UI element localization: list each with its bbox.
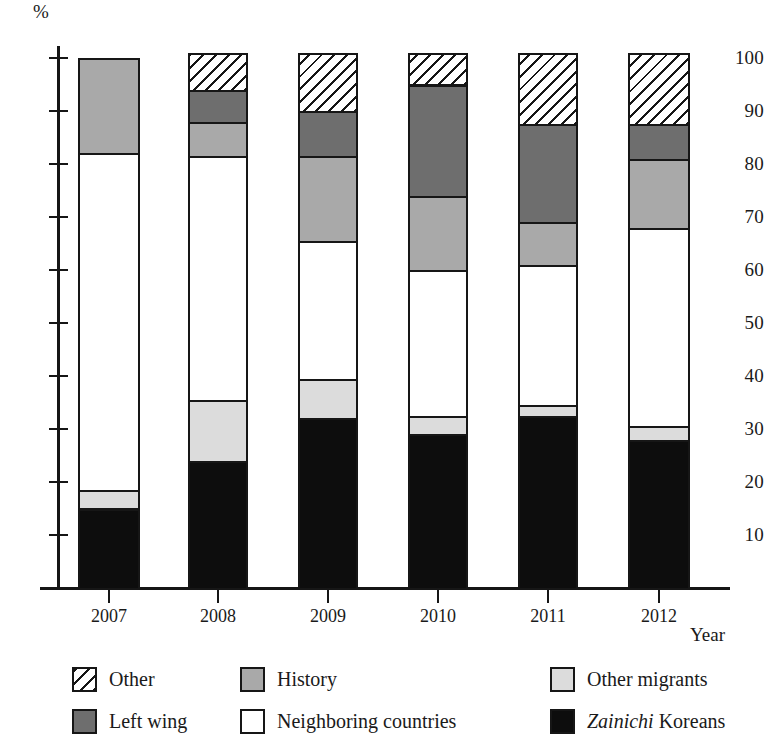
y-tick-label-30: 30 — [720, 419, 764, 438]
bar-segment-2008-leftwing — [188, 90, 248, 124]
y-axis-unit-label: % — [33, 2, 49, 21]
dark-gray-swatch — [72, 709, 97, 734]
bar-segment-2012-history — [628, 159, 690, 230]
bar-segment-2009-neighbor — [298, 241, 358, 381]
bar-segment-2011-other — [518, 53, 578, 127]
bar-segment-2012-zainichi — [628, 440, 690, 590]
y-tick-40 — [49, 375, 68, 377]
bar-segment-2009-leftwing — [298, 111, 358, 158]
x-tick-2007 — [108, 590, 110, 603]
bar-segment-2011-neighbor — [518, 265, 578, 407]
bar-segment-2008-other — [188, 53, 248, 92]
hatch-swatch — [72, 667, 97, 692]
bar-segment-2011-zainichi — [518, 416, 578, 590]
legend-label-history: History — [277, 668, 337, 690]
bar-2007 — [78, 0, 140, 588]
y-tick-label-90: 90 — [720, 101, 764, 120]
y-tick-50 — [49, 322, 68, 324]
white-swatch — [240, 709, 265, 734]
bar-segment-2009-other — [298, 53, 358, 113]
x-tick-2012 — [658, 590, 660, 603]
y-tick-80 — [49, 163, 68, 165]
bar-2012 — [628, 0, 690, 588]
x-axis-title: Year — [690, 625, 725, 644]
bar-segment-2012-leftwing — [628, 124, 690, 160]
bar-segment-2012-neighbor — [628, 228, 690, 429]
bar-segment-2010-leftwing — [408, 85, 468, 198]
bar-segment-2007-zainichi — [78, 509, 140, 591]
legend-item-other[interactable]: Other — [72, 664, 155, 694]
legend-label-neighbor: Neighboring countries — [277, 710, 456, 732]
x-tick-label-2008: 2008 — [173, 607, 263, 625]
y-tick-70 — [49, 216, 68, 218]
legend-item-othermig[interactable]: Other migrants — [550, 664, 708, 694]
x-axis-line — [40, 587, 730, 590]
legend-item-zainichi[interactable]: Zainichi Koreans — [550, 706, 725, 736]
bar-segment-2007-othermig — [78, 490, 140, 511]
x-tick-2009 — [327, 590, 329, 603]
legend-label-zainichi: Zainichi Koreans — [587, 710, 725, 732]
y-tick-100 — [49, 57, 68, 59]
y-tick-label-50: 50 — [720, 313, 764, 332]
medium-gray-swatch — [240, 667, 265, 692]
bar-segment-2007-history — [78, 58, 140, 155]
y-tick-20 — [49, 481, 68, 483]
bar-segment-2010-neighbor — [408, 270, 468, 418]
bar-segment-2008-othermig — [188, 400, 248, 463]
legend-item-neighbor[interactable]: Neighboring countries — [240, 706, 456, 736]
y-tick-60 — [49, 269, 68, 271]
y-tick-label-60: 60 — [720, 260, 764, 279]
x-tick-2008 — [217, 590, 219, 603]
y-tick-10 — [49, 534, 68, 536]
bar-segment-2008-neighbor — [188, 156, 248, 402]
x-tick-label-2009: 2009 — [283, 607, 373, 625]
bar-segment-2010-history — [408, 196, 468, 272]
x-tick-label-2010: 2010 — [393, 607, 483, 625]
plot-area: % 100908070605040302010 2007200820092010… — [0, 0, 764, 600]
y-tick-30 — [49, 428, 68, 430]
bar-segment-2010-zainichi — [408, 434, 468, 590]
bar-segment-2008-zainichi — [188, 461, 248, 590]
x-tick-label-2011: 2011 — [503, 607, 593, 625]
bar-segment-2011-leftwing — [518, 124, 578, 224]
bar-segment-2009-othermig — [298, 379, 358, 421]
bar-2008 — [188, 0, 248, 588]
bar-segment-2012-othermig — [628, 426, 690, 441]
bar-segment-2007-neighbor — [78, 153, 140, 492]
light-gray-swatch — [550, 667, 575, 692]
x-tick-2011 — [547, 590, 549, 603]
x-tick-label-2012: 2012 — [614, 607, 704, 625]
bar-segment-2008-history — [188, 122, 248, 158]
chart-legend: OtherLeft wingHistoryNeighboring countri… — [0, 662, 764, 749]
bar-segment-2010-other — [408, 53, 468, 87]
legend-label-othermig: Other migrants — [587, 668, 708, 690]
bar-segment-2012-other — [628, 53, 690, 127]
bar-segment-2009-history — [298, 156, 358, 243]
y-tick-label-80: 80 — [720, 154, 764, 173]
y-tick-label-40: 40 — [720, 366, 764, 385]
y-tick-label-20: 20 — [720, 472, 764, 491]
bar-2011 — [518, 0, 578, 588]
bar-segment-2009-zainichi — [298, 418, 358, 590]
bar-segment-2011-history — [518, 222, 578, 266]
legend-label-other: Other — [109, 668, 155, 690]
legend-item-leftwing[interactable]: Left wing — [72, 706, 187, 736]
y-tick-90 — [49, 110, 68, 112]
bar-2009 — [298, 0, 358, 588]
x-tick-2010 — [437, 590, 439, 603]
bar-2010 — [408, 0, 468, 588]
x-tick-label-2007: 2007 — [64, 607, 154, 625]
legend-label-leftwing: Left wing — [109, 710, 187, 732]
bar-segment-2010-othermig — [408, 416, 468, 437]
y-axis-line — [57, 46, 60, 590]
legend-item-history[interactable]: History — [240, 664, 337, 694]
stacked-bar-chart: % 100908070605040302010 2007200820092010… — [0, 0, 764, 749]
y-tick-label-10: 10 — [720, 525, 764, 544]
black-swatch — [550, 709, 575, 734]
y-tick-label-70: 70 — [720, 207, 764, 226]
y-tick-label-100: 100 — [720, 48, 764, 67]
